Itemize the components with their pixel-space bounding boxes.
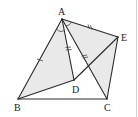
shaded-triangle-abd [18, 19, 74, 99]
geometry-figure: A E B C D [0, 0, 138, 117]
tick-mark-ad-2 [66, 50, 72, 51]
label-c: C [104, 102, 111, 113]
label-a: A [58, 6, 66, 17]
label-b: B [14, 102, 21, 113]
label-d: D [72, 84, 79, 95]
tick-mark-ad-1 [66, 47, 72, 48]
label-e: E [121, 32, 127, 43]
